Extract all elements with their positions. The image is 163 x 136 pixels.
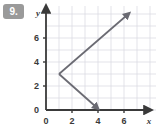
x-tick-label-2: 2	[69, 116, 74, 126]
ray-down-right	[59, 74, 95, 106]
y-tick-label-6: 6	[34, 33, 39, 43]
grid-vertical-lines	[46, 6, 150, 110]
x-tick-label-0: 0	[43, 116, 48, 126]
y-axis-label: y	[35, 8, 41, 18]
exercise-figure: 9.	[0, 0, 163, 136]
x-axis-label: x	[146, 116, 152, 126]
ray-up-right	[59, 16, 126, 74]
y-tick-label-0: 0	[34, 105, 39, 115]
y-tick-label-2: 2	[34, 81, 39, 91]
coordinate-graph: 0 2 4 6 0 2 4 6 y x	[0, 0, 163, 136]
y-tick-label-4: 4	[34, 57, 39, 67]
grid-horizontal-lines	[46, 14, 156, 110]
x-tick-label-4: 4	[95, 116, 100, 126]
x-tick-label-6: 6	[121, 116, 126, 126]
